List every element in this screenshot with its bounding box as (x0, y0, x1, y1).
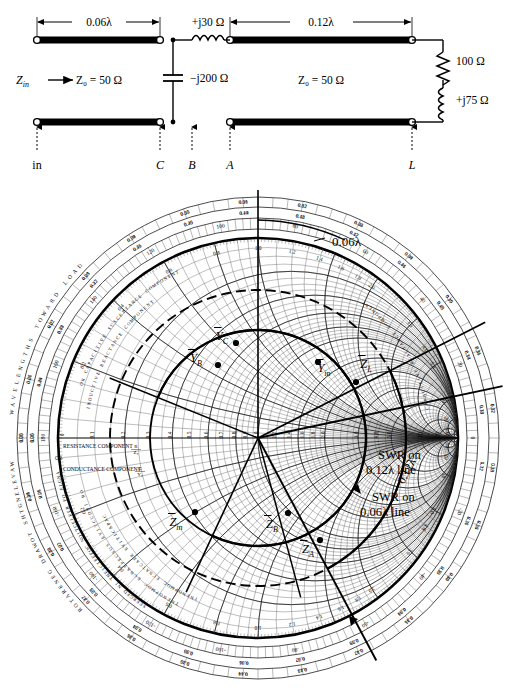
ring-label-toward-generator: W (8, 460, 15, 467)
ring-label-toward-load: H (24, 344, 31, 350)
wavelength-gen-tick: 0.37 (489, 403, 496, 413)
reflection-angle-tick: 20 (456, 361, 464, 368)
circuit-diagram: 0.06λ 0.12λ (0, 0, 512, 180)
node-labels: in C B A L (32, 158, 415, 172)
wavelength-gen-tick: 0.32 (297, 202, 307, 210)
arc-label-inductive-susceptance: C (143, 582, 148, 588)
ring-label-toward-load: T (33, 323, 40, 329)
wavelength-load-tick: 0.43 (295, 212, 305, 220)
ring-label-reflection-angle: A (55, 471, 61, 476)
wavelength-gen-tick: 0.35 (444, 293, 454, 304)
ring-label-toward-load: E (15, 372, 22, 377)
smith-chart-svg: 0.000.000.010.010.020.020.030.030.040.04… (0, 178, 512, 697)
ring-label-toward-generator: E (13, 491, 20, 496)
seg2-length-label: 0.12λ (308, 16, 334, 28)
chart-point-YC[interactable]: YC (214, 328, 239, 347)
point-label: YC (216, 329, 229, 346)
arc-label-capacitive-reactance: E (413, 368, 419, 373)
ring-label-toward-generator: V (10, 474, 17, 479)
reactance-tick-label: 3.0 (405, 320, 414, 329)
ring-label-toward-generator: S (22, 521, 29, 526)
point-marker (353, 379, 359, 385)
ring-label-toward-generator: O (29, 537, 36, 543)
ring-label-toward-load: A (44, 304, 51, 311)
wavelength-gen-tick: 0.25 (18, 433, 24, 442)
reactance-tick-label: 2.0 (367, 282, 376, 291)
resistance-tick-label: 5.0 (386, 431, 392, 438)
ring-label-toward-generator: N (15, 497, 22, 502)
axis-ratio-r: R (134, 444, 138, 449)
chart-point-Yin[interactable]: Yin (315, 359, 331, 378)
ring-label-toward-load: D (76, 262, 83, 269)
reflection-angle-tick: 60 (362, 248, 370, 256)
wavelength-gen-tick: 0.46 (125, 633, 136, 643)
node-label-b: B (188, 158, 196, 172)
point-label: ZA (302, 542, 314, 559)
reactance-tick-label: 1.2 (288, 621, 296, 628)
wavelength-load-tick: 0.37 (478, 461, 485, 471)
arc-label-capacitive-reactance: E (391, 331, 397, 336)
reflection-angle-tick: -100 (215, 646, 226, 654)
resistance-tick-label: 0.6 (203, 431, 209, 438)
reflection-angle-tick: 40 (419, 296, 427, 304)
resistance-tick-label: 0.2 (120, 431, 126, 438)
seg2-z0-label: Z₀ = 50 Ω (298, 74, 344, 86)
wavelength-gen-tick: 0.29 (126, 233, 137, 243)
ring-label-toward-load: A (9, 402, 15, 407)
dimension-seg2: 0.12λ (230, 16, 412, 38)
axis-caption-resistance: RESISTANCE COMPONENT (63, 443, 133, 449)
node-label-in: in (32, 158, 41, 172)
reactance-tick-label: 1.4 (315, 614, 324, 622)
reflection-angle-tick: 0 (470, 437, 476, 440)
resistance-tick-label: 0.8 (231, 431, 237, 438)
swr-006-line2: 0.06λ line (360, 505, 410, 519)
reflection-angle-tick: -80 (291, 646, 300, 653)
shunt-capacitor-branch: −j200 Ω (163, 38, 228, 125)
resistance-tick-label: 0.1 (89, 431, 95, 438)
ring-label-toward-load: S (27, 338, 34, 343)
wavelength-gen-tick: 0.42 (353, 648, 364, 657)
ring-label-toward-generator: G (46, 569, 53, 576)
wavelength-gen-tick: 0.41 (403, 615, 414, 626)
series-inductor: +j30 Ω (173, 16, 230, 40)
reactance-tick-label: 1.8 (354, 595, 363, 604)
point-marker (233, 340, 239, 346)
circuit-svg: 0.06λ 0.12λ (0, 0, 512, 180)
shunt-capacitor-label: −j200 Ω (190, 72, 228, 85)
resistance-tick-label: 0.7 (218, 431, 224, 438)
resistance-tick-label: 20 (434, 432, 440, 438)
wavelength-load-tick: 0.39 (463, 350, 472, 361)
radial-construction-yb (110, 378, 258, 438)
wavelength-load-tick: 0.36 (463, 516, 472, 527)
ring-label-toward-generator: H (20, 514, 27, 520)
swr-006-line1: SWR on (372, 490, 415, 504)
wavelength-load-tick: 0.45 (183, 219, 194, 228)
ring-label-toward-load: D (52, 291, 59, 298)
annotation-006-lambda: 0.06λ (332, 234, 362, 249)
wavelength-gen-tick: 0.48 (45, 546, 55, 557)
ring-label-toward-load: A (71, 268, 78, 275)
arc-label-capacitive-susceptance: T (175, 269, 180, 275)
wavelength-load-tick: 0.33 (348, 638, 359, 647)
wavelength-gen-tick: 0.49 (24, 491, 32, 502)
ring-label-toward-generator: D (40, 558, 47, 565)
node-label-c: C (156, 158, 165, 172)
ring-label-toward-load: V (10, 395, 17, 400)
arc-label-capacitive-susceptance: T (95, 345, 101, 350)
wavelength-load-tick: 0.38 (478, 405, 485, 415)
arc-label-inductive-susceptance: I (83, 503, 88, 507)
load-inductor-label: +j75 Ω (456, 94, 489, 107)
ring-label-toward-load: O (37, 317, 44, 323)
reactance-tick-label: 1.4 (315, 255, 324, 263)
ring-label-toward-load: L (62, 279, 69, 286)
arc-label-capacitive-reactance: C (162, 580, 167, 586)
point-label: Zin (169, 515, 182, 532)
swr-012-line1: SWR on (378, 448, 421, 462)
reflection-angle-tick: -20 (456, 507, 464, 516)
reactance-tick-label: 50 (445, 428, 451, 434)
reflection-angle-tick: -140 (87, 570, 98, 582)
series-inductor-label: +j30 Ω (192, 16, 225, 29)
resistance-tick-label: 4.0 (373, 431, 379, 438)
ring-label-toward-load: O (66, 273, 73, 280)
reflection-angle-tick: 160 (52, 359, 61, 369)
